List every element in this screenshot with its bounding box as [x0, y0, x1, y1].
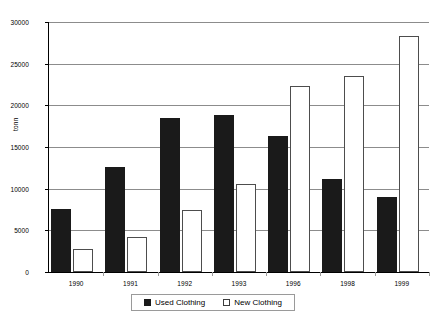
bar-new-clothing — [236, 184, 256, 272]
x-axis-tick-label: 1992 — [158, 280, 212, 288]
x-axis-tick-label: 1993 — [212, 280, 266, 288]
y-axis-tick-label: 30000 — [0, 19, 29, 26]
y-axis-tick-label: 25000 — [0, 60, 29, 67]
y-axis-tick-label: 10000 — [0, 185, 29, 192]
x-axis-tick-mark — [103, 272, 104, 276]
bar-used-clothing — [377, 197, 397, 272]
y-axis-title: tonn — [12, 118, 19, 131]
bar-group — [103, 22, 157, 272]
bar-new-clothing — [399, 36, 419, 272]
x-axis-tick-label: 1990 — [49, 280, 103, 288]
y-axis-tick-label: 20000 — [0, 102, 29, 109]
bar-group — [266, 22, 320, 272]
bar-group — [212, 22, 266, 272]
bar-used-clothing — [105, 167, 125, 272]
bar-group — [320, 22, 374, 272]
x-axis-tick-label: 1991 — [103, 280, 157, 288]
bar-group — [158, 22, 212, 272]
y-axis-tick-label: 15000 — [0, 144, 29, 151]
bar-used-clothing — [160, 118, 180, 272]
bar-new-clothing — [182, 210, 202, 273]
legend-swatch-used-clothing-icon — [144, 299, 151, 306]
bar-used-clothing — [322, 179, 342, 272]
y-axis-tick-label: 5000 — [0, 227, 29, 234]
x-axis-tick-mark — [266, 272, 267, 276]
bar-new-clothing — [290, 86, 310, 272]
bar-new-clothing — [344, 76, 364, 272]
bar-new-clothing — [127, 237, 147, 272]
legend-label: Used Clothing — [155, 298, 205, 307]
bar-used-clothing — [214, 115, 234, 272]
x-axis-tick-label: 1996 — [266, 280, 320, 288]
y-axis-tick-mark — [45, 272, 49, 273]
bar-used-clothing — [268, 136, 288, 272]
x-axis-tick-mark — [158, 272, 159, 276]
x-axis-tick-mark — [375, 272, 376, 276]
x-axis-tick-mark — [429, 272, 430, 276]
bar-group — [375, 22, 429, 272]
legend-entry: New Clothing — [223, 298, 282, 307]
bar-used-clothing — [51, 209, 71, 272]
x-axis-tick-label: 1999 — [375, 280, 429, 288]
bar-group — [49, 22, 103, 272]
legend-entry: Used Clothing — [144, 298, 205, 307]
x-axis-tick-mark — [320, 272, 321, 276]
legend-label: New Clothing — [234, 298, 282, 307]
x-axis-tick-mark — [212, 272, 213, 276]
chart-legend: Used ClothingNew Clothing — [131, 294, 295, 311]
plot-area: 050001000015000200002500030000 199019911… — [48, 22, 429, 273]
y-axis-tick-label: 0 — [0, 269, 29, 276]
legend-swatch-new-clothing-icon — [223, 299, 230, 306]
bar-new-clothing — [73, 249, 93, 272]
x-axis-tick-label: 1998 — [321, 280, 375, 288]
bar-chart: tonn 050001000015000200002500030000 1990… — [0, 0, 444, 321]
